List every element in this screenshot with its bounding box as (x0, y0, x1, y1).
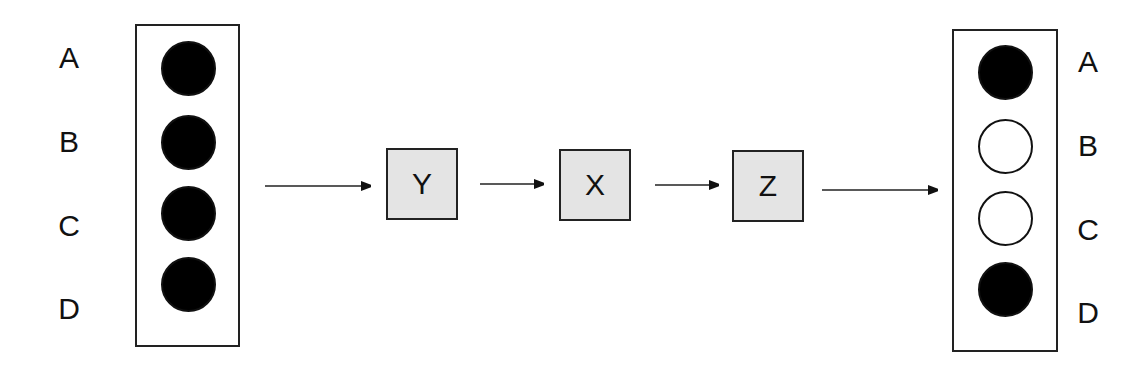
node-x: X (559, 149, 631, 221)
output-label-a: A (1073, 47, 1103, 77)
output-label-b: B (1073, 131, 1103, 161)
output-label-c: C (1073, 215, 1103, 245)
output-dot-b (978, 119, 1033, 174)
output-dot-a (978, 45, 1033, 100)
node-z-label: Z (759, 169, 777, 203)
output-dot-c (978, 191, 1033, 246)
output-label-d: D (1073, 298, 1103, 328)
node-x-label: X (585, 168, 605, 202)
output-dot-d (978, 262, 1033, 317)
node-y-label: Y (412, 167, 432, 201)
output-panel (952, 29, 1058, 352)
node-z: Z (732, 150, 804, 222)
node-y: Y (386, 148, 458, 220)
